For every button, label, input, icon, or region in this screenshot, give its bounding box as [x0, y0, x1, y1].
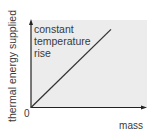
annotation-line-2: temperature: [34, 35, 91, 47]
annotation-line-1: constant: [34, 23, 74, 35]
annotation-line-3: rise: [34, 47, 51, 59]
y-axis-label: thermal energy supplied: [6, 10, 18, 122]
x-axis-label: mass: [119, 120, 143, 131]
origin-label: 0: [24, 108, 30, 119]
chart: constant temperature rise 0 mass thermal…: [0, 0, 157, 134]
